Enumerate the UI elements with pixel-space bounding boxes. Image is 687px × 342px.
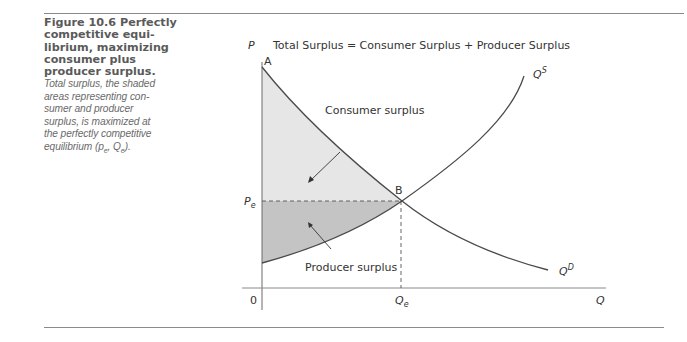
point-b-label: B xyxy=(395,184,403,197)
demand-curve-label: QD xyxy=(559,263,574,278)
surplus-diagram: P Total Surplus = Consumer Surplus + Pro… xyxy=(0,0,687,342)
consumer-surplus-region xyxy=(262,67,402,201)
supply-curve-label: QS xyxy=(533,66,547,81)
producer-surplus-label: Producer surplus xyxy=(305,261,397,274)
qe-label: Qe xyxy=(395,294,409,309)
point-a-label: A xyxy=(264,55,272,68)
pe-label: Pe xyxy=(244,195,256,210)
p-axis-label: P xyxy=(248,39,255,52)
diagram-title: Total Surplus = Consumer Surplus + Produ… xyxy=(272,39,570,52)
producer-surplus-region xyxy=(262,201,402,263)
origin-label: 0 xyxy=(250,294,257,307)
q-axis-label: Q xyxy=(596,294,605,307)
consumer-surplus-label: Consumer surplus xyxy=(325,104,425,117)
